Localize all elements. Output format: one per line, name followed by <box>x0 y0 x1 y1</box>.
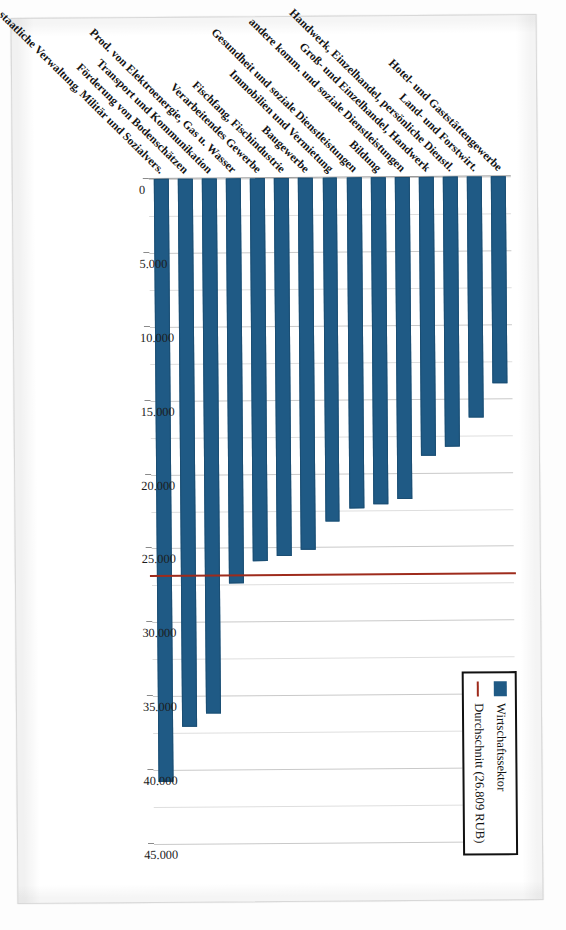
plot-area <box>149 175 516 844</box>
axis-tick-label: 15.000 <box>141 404 175 419</box>
axis-tick <box>146 547 152 548</box>
bar[interactable] <box>250 178 268 561</box>
legend-line-swatch-icon <box>477 681 479 696</box>
category-label: staatliche Verwaltung, Militär und Sozia… <box>0 8 167 176</box>
axis-tick-label: 0 <box>139 183 145 198</box>
axis-tick-label: 35.000 <box>143 700 177 715</box>
bar[interactable] <box>274 178 292 556</box>
bar-row <box>419 177 439 842</box>
bar[interactable] <box>202 178 221 713</box>
rotated-chart-wrapper: 05.00010.00015.00020.00025.00030.00035.0… <box>62 79 534 881</box>
axis-tick <box>147 769 153 770</box>
bar[interactable] <box>491 176 508 383</box>
bar[interactable] <box>395 177 412 499</box>
bar[interactable] <box>346 177 364 508</box>
bar-row <box>371 177 391 842</box>
legend-item-average: Durchschnitt (26.809 RUB) <box>471 681 487 843</box>
chart-legend: Wirtschaftssektor Durchschnitt (26.809 R… <box>462 671 518 856</box>
bar-row <box>322 178 342 843</box>
bar[interactable] <box>419 177 436 456</box>
bar-row <box>298 178 318 843</box>
axis-tick-label: 45.000 <box>144 848 178 863</box>
plot-inner <box>149 176 516 844</box>
bar[interactable] <box>467 176 484 417</box>
bar-row <box>153 179 173 844</box>
bar-row <box>250 178 270 843</box>
axis-tick-label: 10.000 <box>140 331 174 346</box>
axis-tick-label: 5.000 <box>139 257 167 272</box>
bar-row <box>178 179 198 844</box>
bar-row <box>226 178 246 843</box>
axis-tick-label: 20.000 <box>141 478 175 493</box>
axis-tick-label: 40.000 <box>143 774 177 789</box>
axis-tick <box>145 474 151 475</box>
axis-tick <box>143 178 149 179</box>
bar-row <box>202 178 222 843</box>
legend-bar-swatch-icon <box>494 681 507 696</box>
legend-label-series: Wirtschaftssektor <box>493 703 509 791</box>
scanned-page: 05.00010.00015.00020.00025.00030.00035.0… <box>0 0 566 930</box>
legend-label-average: Durchschnitt (26.809 RUB) <box>471 703 487 843</box>
bar-row <box>346 177 366 842</box>
bar-chart: 05.00010.00015.00020.00025.00030.00035.0… <box>62 79 534 881</box>
bar-row <box>274 178 294 843</box>
bar[interactable] <box>178 179 197 727</box>
axis-tick <box>145 400 151 401</box>
axis-tick <box>146 621 152 622</box>
bar[interactable] <box>443 177 460 448</box>
axis-tick <box>148 843 154 844</box>
value-axis: 05.00010.00015.00020.00025.00030.00035.0… <box>528 79 534 877</box>
paper-sheet: 05.00010.00015.00020.00025.00030.00035.0… <box>11 14 544 904</box>
bar[interactable] <box>322 178 340 522</box>
bar[interactable] <box>298 178 316 550</box>
bar[interactable] <box>226 178 244 583</box>
bar[interactable] <box>371 177 389 504</box>
axis-tick-label: 30.000 <box>142 626 176 641</box>
axis-tick <box>147 695 153 696</box>
bar-row <box>395 177 415 842</box>
legend-item-series: Wirtschaftssektor <box>493 681 509 843</box>
axis-tick-label: 25.000 <box>142 552 176 567</box>
axis-tick <box>144 326 150 327</box>
bar-row <box>443 177 463 842</box>
category-axis: Hotel- und GaststättengewerbeLand- und F… <box>528 79 534 877</box>
axis-tick <box>143 252 149 253</box>
